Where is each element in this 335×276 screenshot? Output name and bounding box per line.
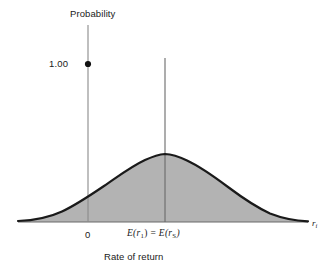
x-axis-tick-label-zero: 0 bbox=[85, 230, 90, 240]
x-axis-variable-subscript: i bbox=[316, 222, 318, 229]
x-axis-variable-label: ri bbox=[312, 219, 317, 228]
equality-operator: ) = bbox=[144, 228, 158, 238]
x-axis-title: Rate of return bbox=[104, 252, 164, 262]
x-axis-variable-symbol: r bbox=[312, 218, 316, 228]
return-subscript-2: S bbox=[172, 232, 176, 239]
y-axis-tick-label-1-00: 1.00 bbox=[49, 59, 68, 69]
return-variable-1: (r bbox=[133, 228, 140, 238]
closing-paren: ) bbox=[176, 228, 179, 238]
probability-one-marker-icon bbox=[85, 61, 91, 67]
x-axis-tick-label-expected-return: E(r1) = E(rS) bbox=[127, 229, 180, 239]
return-subscript-1: 1 bbox=[141, 232, 145, 239]
probability-distribution-figure: Probability 1.00 0 E(r1) = E(rS) ri Rate… bbox=[0, 0, 335, 276]
y-axis-title: Probability bbox=[70, 9, 115, 19]
